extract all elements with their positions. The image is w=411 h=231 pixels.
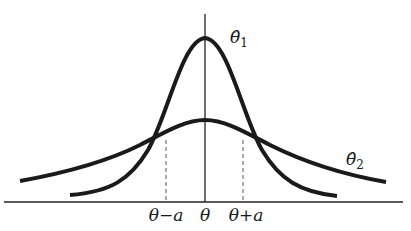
curve-theta1 — [70, 38, 337, 196]
label-theta2: θ̂2 — [346, 149, 364, 172]
label-theta1: θ̂1 — [230, 27, 248, 50]
diagram-canvas: θ̂1 θ̂2 θ−a θ θ+a — [0, 0, 411, 231]
curve-theta2 — [20, 120, 386, 182]
label-theta-minus-a: θ−a — [149, 205, 184, 225]
label-theta-plus-a: θ+a — [229, 205, 264, 225]
label-theta: θ — [200, 205, 210, 225]
